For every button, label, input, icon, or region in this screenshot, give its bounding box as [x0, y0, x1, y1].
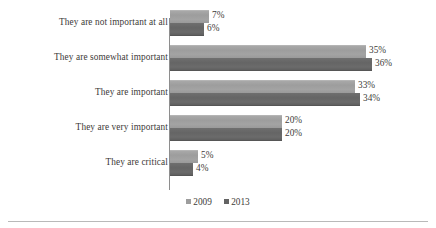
bar-2013	[170, 128, 282, 141]
legend-label: 2009	[193, 196, 212, 208]
bar-group: They are very important 20% 20%	[0, 113, 436, 147]
category-label: They are critical	[0, 156, 168, 169]
bar-2013	[170, 23, 204, 36]
bar-2009	[170, 45, 366, 58]
category-label: They are somewhat important	[0, 51, 168, 64]
bottom-divider	[8, 221, 428, 222]
bar-group: They are important 33% 34%	[0, 78, 436, 112]
value-label-2013: 36%	[375, 57, 392, 69]
bar-group: They are somewhat important 35% 36%	[0, 43, 436, 77]
value-label-2009: 35%	[369, 44, 386, 56]
value-label-2009: 33%	[358, 79, 375, 91]
value-label-2013: 20%	[285, 127, 302, 139]
bar-group: They are not important at all 7% 6%	[0, 8, 436, 42]
value-label-2013: 6%	[207, 22, 219, 34]
category-label: They are not important at all	[0, 16, 168, 29]
value-label-2009: 20%	[285, 114, 302, 126]
bar-group: They are critical 5% 4%	[0, 148, 436, 182]
bar-2013	[170, 58, 372, 71]
value-label-2013: 4%	[196, 162, 208, 174]
value-label-2009: 5%	[201, 149, 213, 161]
chart-legend: 2009 2013	[0, 196, 436, 208]
value-label-2009: 7%	[212, 9, 224, 21]
bar-2009	[170, 80, 355, 93]
value-label-2013: 34%	[363, 92, 380, 104]
legend-swatch-icon	[186, 199, 191, 204]
legend-item-2009[interactable]: 2009	[186, 196, 212, 208]
bar-2013	[170, 93, 360, 106]
category-label: They are very important	[0, 121, 168, 134]
bar-2009	[170, 150, 198, 163]
bar-2009	[170, 115, 282, 128]
bar-2013	[170, 163, 193, 176]
chart-figure: They are not important at all 7% 6% They…	[0, 0, 436, 228]
category-label: They are important	[0, 86, 168, 99]
legend-item-2013[interactable]: 2013	[224, 196, 250, 208]
legend-label: 2013	[231, 196, 250, 208]
plot-area: They are not important at all 7% 6% They…	[0, 8, 436, 188]
bar-2009	[170, 10, 209, 23]
legend-swatch-icon	[224, 199, 229, 204]
